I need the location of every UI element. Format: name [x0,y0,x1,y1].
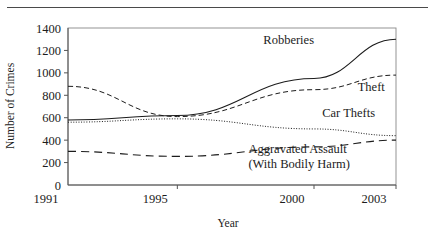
series-inline-labels: RobberiesTheftCar TheftsAggravated Assau… [248,33,385,171]
y-tick-label: 1200 [36,44,61,58]
x-axis-ticks: 1991199520002003 [34,185,397,206]
line-chart-figure: 0200400600800100012001400 19911995200020… [0,0,432,239]
series-label-theft: Theft [358,80,386,94]
series-line-aggravated-assault [68,140,396,156]
data-series-lines [68,39,396,156]
figure-page: 0200400600800100012001400 19911995200020… [0,0,432,239]
y-axis-ticks: 0200400600800100012001400 [36,22,68,193]
series-label-car-thefts: Car Thefts [322,106,375,120]
series-label-aggravated-assault-line2: (With Bodily Harm) [248,157,350,171]
series-label-aggravated-assault: Aggravated Assault [248,142,347,156]
x-tick-label: 2003 [362,192,387,206]
x-tick-label: 1995 [143,192,168,206]
x-axis-title: Year [217,217,238,229]
y-tick-label: 600 [42,111,61,125]
y-tick-label: 400 [42,134,61,148]
x-tick-label: 2000 [280,192,305,206]
y-axis-title: Number of Crimes [4,62,16,149]
series-label-robberies: Robberies [263,33,314,47]
y-tick-label: 0 [55,179,61,193]
y-tick-label: 1000 [36,66,61,80]
y-tick-label: 800 [42,89,61,103]
crime-trends-line-chart: 0200400600800100012001400 19911995200020… [0,0,432,239]
x-tick-label: 1991 [34,192,59,206]
y-tick-label: 1400 [36,22,61,36]
series-line-car-thefts [68,119,396,136]
y-tick-label: 200 [42,156,61,170]
